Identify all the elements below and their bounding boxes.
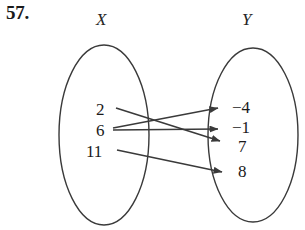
domain-element: 6: [96, 122, 105, 139]
mapping-arrow: [113, 108, 218, 128]
range-element: 7: [238, 138, 247, 155]
mapping-arrow-group: [113, 108, 222, 172]
range-element: 8: [238, 163, 247, 180]
mapping-arrow: [117, 150, 222, 172]
range-element: −1: [232, 119, 250, 136]
range-element: −4: [232, 99, 250, 116]
mapping-arrow: [113, 129, 218, 130]
mapping-diagram-canvas: [0, 0, 305, 230]
domain-element: 2: [96, 101, 105, 118]
set-mapping-figure: 57. X Y 2611 −4−178: [0, 0, 305, 230]
range-set-ellipse: [208, 48, 298, 222]
domain-element: 11: [86, 143, 102, 160]
